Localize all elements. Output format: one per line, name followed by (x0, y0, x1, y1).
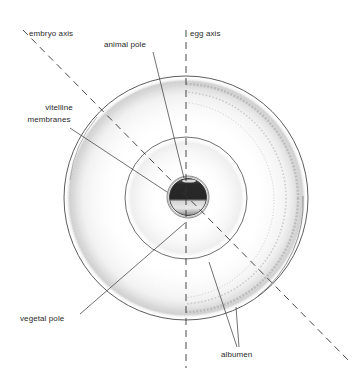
vitelline-membranes-label-line2: membranes (19, 114, 79, 125)
animal-pole-highlight (182, 179, 196, 182)
egg-axis-label: egg axis (190, 28, 221, 39)
egg-diagram-svg (0, 0, 360, 386)
albumen-leader-outer (236, 307, 239, 347)
embryo-axis-label: embryo axis (29, 28, 73, 39)
vitelline-membranes-label-line1: vitelline (29, 102, 89, 113)
animal-pole-label: animal pole (104, 39, 146, 50)
egg-diagram: embryo axis egg axis animal pole vitelli… (0, 0, 360, 386)
vegetal-pole-label: vegetal pole (20, 313, 64, 324)
albumen-label: albumen (221, 349, 252, 360)
